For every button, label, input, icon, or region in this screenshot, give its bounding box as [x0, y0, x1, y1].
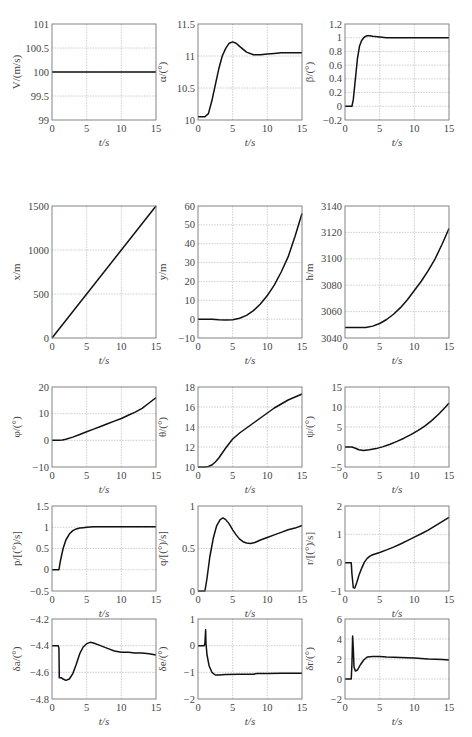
data-curve-x	[52, 206, 156, 338]
y-tick-label: 20	[185, 276, 196, 287]
x-tick-label: 0	[195, 341, 200, 352]
y-tick-label: 1.2	[329, 19, 342, 30]
x-tick-label: 0	[342, 594, 347, 605]
y-tick-label: 6	[337, 614, 342, 625]
y-tick-label: 3120	[321, 227, 342, 238]
y-tick-label: 40	[185, 238, 196, 249]
x-tick-label: 10	[262, 702, 273, 713]
x-tick-label: 0	[195, 702, 200, 713]
y-tick-label: 1	[337, 32, 342, 43]
y-tick-label: 2	[337, 654, 342, 665]
x-tick-label: 15	[297, 123, 308, 134]
y-tick-label: 0.5	[182, 543, 195, 554]
y-tick-label: 50	[185, 219, 196, 230]
x-tick-label: 15	[151, 341, 162, 352]
x-tick-label: 5	[84, 470, 89, 481]
x-tick-label: 0	[49, 341, 54, 352]
x-tick-label: 0	[195, 594, 200, 605]
y-tick-label: 0	[44, 435, 49, 446]
y-tick-label: 99.5	[31, 91, 49, 102]
y-tick-label: 1	[190, 614, 195, 625]
x-axis-label: t/s	[245, 136, 255, 148]
data-curve-phi	[52, 398, 156, 441]
y-tick-label: 14	[185, 422, 196, 433]
subplot-q: 05101500.51t/sq/[(°)/s]	[156, 501, 307, 620]
x-tick-label: 15	[151, 470, 162, 481]
x-tick-label: 5	[84, 341, 89, 352]
y-axis-label: δe/(°)	[156, 646, 169, 671]
y-tick-label: −5	[331, 462, 342, 473]
y-axis-label: x/m	[10, 263, 22, 281]
data-curve-theta	[198, 394, 302, 467]
x-tick-label: 15	[444, 702, 455, 713]
y-tick-label: 4	[337, 634, 343, 645]
y-tick-label: 5	[337, 422, 342, 433]
x-tick-label: 10	[262, 470, 273, 481]
x-axis-label: t/s	[392, 483, 402, 495]
y-axis-label: V/(m/s)	[10, 55, 23, 90]
subplot-delta_r: 051015−20246t/sδr/(°)	[303, 614, 454, 728]
x-axis-label: t/s	[245, 354, 255, 366]
subplot-theta: 0510151012141618t/sθ/(°)	[156, 382, 307, 496]
y-tick-label: 3100	[321, 253, 342, 264]
data-curve-alpha	[198, 42, 302, 117]
x-tick-label: 15	[151, 123, 162, 134]
subplot-h: 051015304030603080310031203140t/sh/m	[303, 201, 454, 367]
subplot-r: 051015−1012t/sr/[(°)/s]	[303, 501, 454, 620]
axes-frame	[198, 619, 302, 699]
y-tick-label: −2	[184, 694, 195, 705]
x-tick-label: 10	[262, 341, 273, 352]
y-tick-label: 0.5	[36, 543, 49, 554]
data-curve-q	[198, 518, 302, 591]
x-tick-label: 5	[377, 702, 382, 713]
x-tick-label: 5	[230, 594, 235, 605]
x-axis-label: t/s	[392, 354, 402, 366]
y-tick-label: 2	[337, 501, 342, 512]
y-tick-label: 0	[44, 333, 49, 344]
x-tick-label: 15	[444, 594, 455, 605]
data-curve-h	[345, 228, 449, 327]
y-tick-label: 101	[33, 19, 49, 30]
x-axis-label: t/s	[99, 136, 109, 148]
y-tick-label: 15	[332, 382, 343, 393]
y-tick-label: 0	[337, 442, 342, 453]
y-tick-label: 1000	[28, 245, 49, 256]
x-tick-label: 15	[444, 341, 455, 352]
x-tick-label: 15	[297, 470, 308, 481]
x-tick-label: 5	[377, 594, 382, 605]
x-axis-label: t/s	[99, 715, 109, 727]
y-tick-label: 3140	[321, 201, 342, 212]
data-curve-delta_a	[52, 642, 156, 680]
subplot-alpha: 0510151010.51111.5t/sα/(°)	[156, 19, 307, 149]
y-tick-label: 11.5	[177, 19, 195, 30]
x-tick-label: 10	[409, 702, 420, 713]
axes-frame	[52, 387, 156, 467]
y-tick-label: −0.5	[30, 586, 49, 597]
y-tick-label: 0	[190, 586, 195, 597]
y-tick-label: 0	[44, 564, 49, 575]
y-tick-label: −4.2	[30, 614, 49, 625]
x-tick-label: 5	[377, 470, 382, 481]
x-axis-label: t/s	[245, 607, 255, 619]
x-tick-label: 10	[116, 123, 127, 134]
data-curve-beta	[345, 36, 449, 107]
y-tick-label: 0	[190, 314, 195, 325]
y-tick-label: 60	[185, 201, 196, 212]
x-tick-label: 10	[262, 594, 273, 605]
y-tick-label: 99	[39, 115, 50, 126]
y-tick-label: 16	[185, 402, 196, 413]
y-tick-label: 1.5	[36, 501, 49, 512]
subplot-delta_e: 051015−2−101t/sδe/(°)	[156, 614, 307, 728]
y-tick-label: 3060	[321, 306, 342, 317]
x-tick-label: 15	[151, 594, 162, 605]
x-tick-label: 0	[49, 702, 54, 713]
x-axis-label: t/s	[99, 607, 109, 619]
y-tick-label: −0.2	[323, 115, 342, 126]
x-tick-label: 0	[195, 123, 200, 134]
y-tick-label: 10	[185, 462, 196, 473]
x-tick-label: 0	[342, 702, 347, 713]
y-tick-label: 1500	[28, 201, 49, 212]
subplot-y: 051015−100102030405060t/sy/m	[156, 201, 307, 367]
y-tick-label: 0	[337, 674, 342, 685]
x-tick-label: 5	[230, 123, 235, 134]
